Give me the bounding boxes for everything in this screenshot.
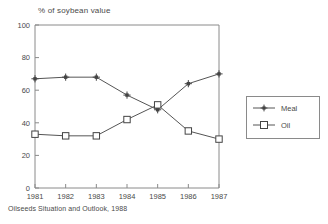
data-point-marker [154,102,160,108]
x-tick-label: 1982 [57,192,74,201]
series-oil [32,102,222,143]
legend-marker-square-icon [253,119,275,131]
data-point-marker [185,128,191,134]
x-tick-label: 1985 [149,192,166,201]
chart-legend: Meal Oil [246,96,320,139]
legend-item-meal: Meal [253,101,297,115]
x-tick-label: 1987 [211,192,228,201]
source-note: Oilseeds Situation and Outlook, 1988 [8,205,127,212]
data-point-marker [62,133,68,139]
series-meal [31,70,222,113]
legend-label-oil: Oil [281,121,290,130]
data-point-marker [31,75,38,82]
data-point-marker [216,136,222,142]
legend-item-oil: Oil [253,118,290,132]
y-tick-label: 40 [22,119,30,128]
data-series-layer [31,70,222,142]
y-tick-label: 20 [22,151,30,160]
data-point-marker [93,74,100,81]
data-point-marker [62,74,69,81]
legend-marker-star-icon [253,102,275,114]
x-axis-ticks: 1981198219831984198519861987 [27,184,228,201]
legend-label-meal: Meal [281,104,297,113]
chart-container: % of soybean value 020406080100 19811982… [0,0,328,224]
y-tick-label: 60 [22,86,30,95]
data-point-marker [123,91,130,98]
y-tick-label: 100 [17,21,30,30]
data-point-marker [124,116,130,122]
x-tick-label: 1983 [88,192,105,201]
data-point-marker [93,133,99,139]
x-tick-label: 1981 [27,192,44,201]
x-tick-label: 1986 [180,192,197,201]
data-point-marker [215,70,222,77]
y-axis-ticks: 020406080100 [17,21,39,193]
x-tick-label: 1984 [119,192,136,201]
plot-frame [35,25,219,188]
data-point-marker [32,131,38,137]
y-tick-label: 80 [22,53,30,62]
